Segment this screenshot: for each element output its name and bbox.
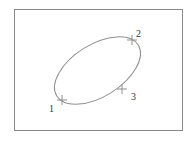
point-3-label: 3 [131, 91, 136, 102]
point-3-marker [117, 84, 127, 94]
point-1-marker [57, 95, 67, 105]
point-2-label: 2 [136, 28, 141, 39]
diagram-canvas: 1 2 3 [0, 0, 196, 141]
point-1-label: 1 [49, 103, 54, 114]
